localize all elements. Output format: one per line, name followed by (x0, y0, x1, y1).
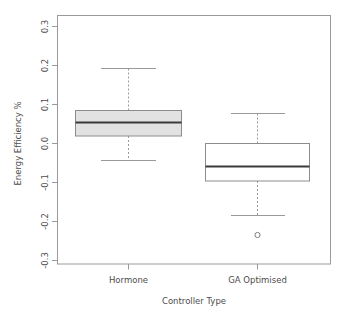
x-axis-ticks (129, 264, 258, 270)
y-axis-title: Energy Efficiency % (13, 101, 23, 185)
x-axis-title: Controller Type (162, 296, 226, 306)
boxplot-figure: 0.3 0.2 0.1 0.0 -0.1 -0.2 -0.3 Energy Ef… (0, 0, 345, 320)
y-axis-ticks (52, 27, 58, 261)
box-rect-ga-optimised (206, 144, 310, 182)
plot-frame (58, 16, 331, 265)
y-tick-label-0.3: 0.3 (40, 20, 50, 34)
x-category-label-ga-optimised: GA Optimised (228, 275, 287, 285)
y-tick-label-0.1: 0.1 (40, 98, 50, 112)
y-tick-label--0.1: -0.1 (40, 174, 50, 191)
y-tick-label--0.3: -0.3 (40, 252, 50, 269)
y-tick-label--0.2: -0.2 (40, 213, 50, 230)
y-axis-tick-labels: 0.3 0.2 0.1 0.0 -0.1 -0.2 -0.3 (40, 20, 50, 269)
x-category-label-hormone: Hormone (109, 275, 148, 285)
y-tick-label-0.0: 0.0 (40, 137, 50, 151)
chart-root: 0.3 0.2 0.1 0.0 -0.1 -0.2 -0.3 Energy Ef… (0, 0, 345, 320)
y-tick-label-0.2: 0.2 (40, 59, 50, 73)
